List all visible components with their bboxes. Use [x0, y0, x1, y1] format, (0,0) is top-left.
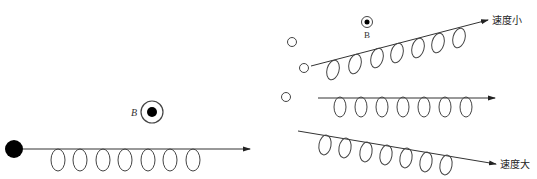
particle-slow — [288, 38, 297, 47]
helix-loop — [451, 27, 468, 49]
helix-loop — [358, 141, 373, 163]
helix-loop — [438, 154, 453, 176]
diagram-svg: B B — [0, 0, 537, 179]
source-particle — [5, 140, 23, 158]
incoming-helix-loops — [51, 149, 200, 171]
helix-loop — [337, 137, 352, 159]
helix-loop — [439, 97, 451, 117]
medium-helix-loops — [334, 97, 472, 117]
field-dot-icon — [365, 20, 370, 25]
label-fast-speed: 速度大 — [500, 158, 530, 170]
particle-fast — [282, 93, 291, 102]
helix-loop — [376, 97, 388, 117]
helix-loop — [141, 149, 155, 171]
split-particles — [282, 38, 309, 102]
helix-loop — [163, 149, 177, 171]
field-label-b-italic: B — [131, 107, 137, 118]
helix-loop — [418, 151, 433, 173]
helix-loop — [118, 149, 132, 171]
helical-motion-diagram: B B — [0, 0, 537, 179]
magnetic-field-symbol-right: B — [362, 17, 373, 41]
beam-medium — [318, 97, 495, 117]
helix-loop — [378, 144, 393, 166]
helix-loop — [397, 97, 409, 117]
helix-loop — [430, 32, 447, 54]
incoming-beam — [23, 149, 250, 171]
particle-medium — [300, 64, 309, 73]
helix-loop — [96, 149, 110, 171]
beam-fast: 速度大 — [298, 131, 530, 176]
helix-loop — [334, 97, 346, 117]
field-label-b: B — [364, 30, 370, 40]
helix-loop — [317, 134, 332, 156]
beam-slow: 速度小 — [311, 14, 522, 81]
magnetic-field-symbol-left: B — [131, 101, 163, 123]
helix-loop — [51, 149, 65, 171]
label-slow-speed: 速度小 — [492, 14, 522, 26]
fast-helix-loops — [317, 134, 453, 176]
helix-loop — [460, 97, 472, 117]
helix-loop — [418, 97, 430, 117]
helix-loop — [73, 149, 87, 171]
helix-loop — [186, 149, 200, 171]
slow-helix-loops — [325, 27, 468, 81]
field-dot-icon — [147, 107, 157, 117]
helix-loop — [355, 97, 367, 117]
